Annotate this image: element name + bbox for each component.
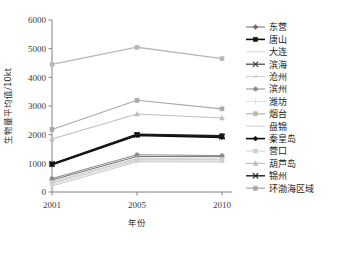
legend-label: 滨州	[269, 83, 287, 94]
data-point-diamond	[253, 136, 258, 141]
y-tick-label: 2000	[28, 130, 47, 140]
series-line	[52, 161, 222, 184]
legend-label: 葫芦岛	[269, 158, 296, 169]
legend-label: 秦皇岛	[269, 133, 296, 144]
chart-container: 0100020003000400050006000200120052010年份生…	[0, 0, 349, 257]
legend-label: 沧州	[269, 71, 287, 82]
legend-label: 潍坊	[269, 96, 287, 107]
legend-label: 营口	[269, 145, 287, 156]
data-point-square	[220, 158, 224, 162]
line-chart: 0100020003000400050006000200120052010年份生…	[0, 0, 349, 257]
y-tick-label: 0	[42, 187, 47, 197]
legend-item-0[interactable]: 东营	[246, 21, 287, 32]
data-point-square	[254, 112, 258, 116]
legend: 东营唐山大连滨海沧州滨州潍坊烟台盘锦秦皇岛营口葫芦岛锦州环渤海区域	[246, 21, 314, 193]
legend-item-2[interactable]: 大连	[246, 46, 287, 57]
legend-item-6[interactable]: 潍坊	[246, 96, 287, 107]
legend-item-8[interactable]: 盘锦	[246, 121, 287, 132]
x-tick-label: 2010	[213, 200, 232, 210]
data-point-circle	[254, 87, 258, 91]
legend-label: 唐山	[269, 34, 287, 45]
data-point-square	[135, 157, 139, 161]
legend-label: 烟台	[269, 108, 287, 119]
data-point-diamond	[253, 25, 258, 30]
series-line	[52, 162, 222, 186]
legend-label: 滨海	[269, 59, 287, 70]
data-point-plus	[253, 99, 259, 105]
data-point-square	[254, 149, 258, 153]
legend-item-5[interactable]: 滨州	[246, 83, 287, 94]
legend-label: 东营	[269, 21, 287, 32]
x-tick-label: 2005	[128, 200, 147, 210]
data-point-square	[135, 45, 139, 49]
series-7	[50, 45, 224, 66]
series-2	[52, 161, 222, 184]
series-line	[52, 47, 222, 64]
series-4	[50, 160, 224, 187]
x-axis-title: 年份	[128, 218, 146, 228]
legend-label: 盘锦	[269, 121, 287, 132]
data-point-circle	[135, 153, 139, 157]
data-point-star	[254, 75, 258, 78]
y-tick-label: 4000	[28, 73, 47, 83]
y-tick-label: 6000	[28, 15, 47, 25]
legend-label: 大连	[269, 46, 287, 57]
data-point-square	[220, 57, 224, 61]
y-tick-label: 1000	[28, 159, 47, 169]
legend-item-11[interactable]: 葫芦岛	[246, 158, 296, 169]
data-point-square	[220, 107, 224, 111]
data-point-circle	[50, 177, 54, 181]
data-point-square	[50, 62, 54, 66]
legend-item-13[interactable]: 环渤海区域	[246, 183, 314, 194]
legend-label: 锦州	[269, 170, 287, 181]
data-point-square	[50, 181, 54, 185]
y-tick-label: 5000	[28, 44, 47, 54]
legend-item-1[interactable]: 唐山	[246, 34, 287, 45]
legend-item-10[interactable]: 营口	[246, 145, 287, 156]
data-point-square	[254, 37, 258, 41]
series-line	[52, 160, 222, 185]
legend-label: 环渤海区域	[269, 183, 314, 194]
data-point-circle	[220, 154, 224, 158]
x-tick-label: 2001	[43, 200, 61, 210]
legend-item-3[interactable]: 滨海	[246, 59, 287, 70]
legend-item-12[interactable]: 锦州	[246, 170, 287, 181]
data-point-square	[50, 128, 54, 132]
legend-item-9[interactable]: 秦皇岛	[246, 133, 296, 144]
data-point-square	[135, 98, 139, 102]
legend-item-4[interactable]: 沧州	[246, 71, 287, 82]
y-tick-label: 3000	[28, 101, 47, 111]
data-point-square	[254, 186, 258, 190]
y-axis-title: 生物量平均值/10kt	[3, 67, 13, 144]
legend-item-7[interactable]: 烟台	[246, 108, 287, 119]
